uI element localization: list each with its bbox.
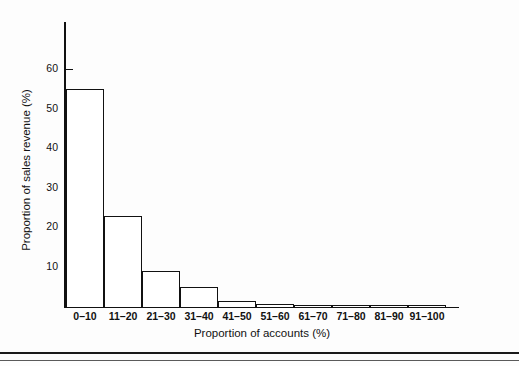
plot-area: 102030405060 0–1011–2021–3031–4041–5051–… bbox=[0, 0, 519, 340]
y-axis-title-wrapper: Proportion of sales revenue (%) bbox=[17, 60, 35, 280]
page-rule-thick bbox=[0, 352, 519, 354]
histogram-bar bbox=[218, 301, 256, 307]
x-axis-tick-labels: 0–1011–2021–3031–4041–5051–6061–7071–808… bbox=[66, 310, 466, 326]
bar-series bbox=[66, 22, 446, 307]
histogram-bar bbox=[294, 305, 332, 307]
histogram-bar bbox=[104, 216, 142, 307]
histogram-bar bbox=[180, 287, 218, 307]
histogram-bar bbox=[256, 304, 294, 307]
x-axis-title: Proportion of accounts (%) bbox=[64, 327, 460, 339]
figure-container: 102030405060 0–1011–2021–3031–4041–5051–… bbox=[0, 0, 519, 366]
histogram-bar bbox=[370, 305, 408, 307]
histogram-bar bbox=[408, 305, 446, 307]
y-tick-label: 40 bbox=[46, 142, 58, 153]
x-axis-line bbox=[64, 307, 459, 309]
page-rule-thin bbox=[0, 360, 519, 361]
x-tick-label: 91–100 bbox=[402, 310, 452, 322]
histogram-bar bbox=[332, 305, 370, 307]
histogram-bar bbox=[66, 89, 104, 306]
y-axis-title: Proportion of sales revenue (%) bbox=[20, 89, 32, 251]
y-tick-label: 20 bbox=[46, 221, 58, 232]
y-tick-label: 30 bbox=[46, 182, 58, 193]
y-tick-label: 10 bbox=[46, 261, 58, 272]
y-tick-label: 60 bbox=[46, 63, 58, 74]
histogram-bar bbox=[142, 271, 180, 307]
y-tick-label: 50 bbox=[46, 103, 58, 114]
